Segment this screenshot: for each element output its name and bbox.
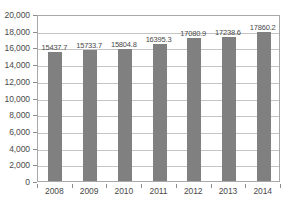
y-tick-label: 16,000: [5, 43, 30, 53]
bar: [153, 44, 167, 181]
x-tick-mark: [106, 184, 107, 188]
bar-value-label: 17080.9: [180, 29, 206, 38]
bar: [222, 37, 236, 181]
x-tick-label: 2009: [80, 186, 99, 196]
bar: [48, 52, 62, 181]
y-tick-label: 10,000: [5, 94, 30, 104]
y-tick-label: 2,000: [9, 160, 30, 170]
x-tick-label: 2010: [115, 186, 134, 196]
bar-value-label: 15804.8: [111, 40, 137, 49]
y-tick-label: 6,000: [9, 127, 30, 137]
bar-value-label: 15733.7: [76, 41, 102, 50]
x-tick-mark: [245, 184, 246, 188]
x-tick-mark: [141, 184, 142, 188]
x-tick-label: 2014: [253, 186, 272, 196]
x-tick-mark: [72, 184, 73, 188]
x-tick-mark: [37, 184, 38, 188]
x-tick-label: 2012: [184, 186, 203, 196]
bar-value-label: 17860.2: [250, 23, 276, 32]
y-tick-label: 14,000: [5, 60, 30, 70]
bar-value-label: 15437.7: [41, 43, 67, 52]
x-axis: 2008200920102011201220132014: [37, 184, 280, 204]
x-tick-mark: [176, 184, 177, 188]
bar: [257, 32, 271, 181]
x-tick-mark: [280, 184, 281, 188]
y-axis: 02,0004,0006,0008,00010,00012,00014,0001…: [0, 0, 37, 205]
y-tick-label: 4,000: [9, 144, 30, 154]
bar: [83, 50, 97, 181]
y-tick-label: 12,000: [5, 77, 30, 87]
y-tick-mark: [33, 182, 37, 183]
x-tick-mark: [211, 184, 212, 188]
x-tick-label: 2013: [219, 186, 238, 196]
x-tick-label: 2008: [45, 186, 64, 196]
bar: [118, 49, 132, 181]
bar-value-label: 16395.3: [146, 35, 172, 44]
y-tick-label: 20,000: [5, 10, 30, 20]
y-tick-label: 18,000: [5, 27, 30, 37]
bar: [187, 38, 201, 181]
bar-value-label: 17238.6: [215, 28, 241, 37]
y-tick-label: 8,000: [9, 110, 30, 120]
y-tick-label: 0: [25, 177, 30, 187]
x-tick-label: 2011: [150, 186, 168, 196]
chart-title-cutoff: [0, 0, 283, 5]
bar-chart: 02,0004,0006,0008,00010,00012,00014,0001…: [0, 0, 283, 205]
